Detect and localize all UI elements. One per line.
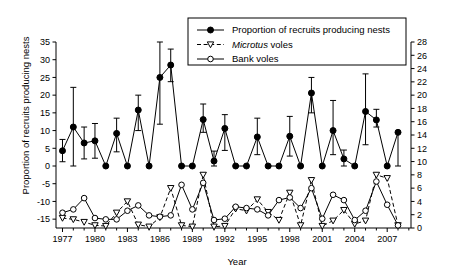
data-point-filled-circle — [70, 124, 76, 130]
data-point-filled-circle — [124, 163, 130, 169]
data-point-open-triangle-down — [362, 218, 368, 224]
data-point-open-circle — [200, 180, 206, 186]
data-point-open-circle — [233, 204, 239, 210]
data-point-filled-circle — [103, 163, 109, 169]
y-axis-right-tick-label: 24 — [417, 64, 427, 74]
data-point-filled-circle — [330, 128, 336, 134]
data-point-open-circle — [352, 217, 358, 223]
data-point-filled-circle — [222, 125, 228, 131]
x-axis-tick-label: 1989 — [182, 234, 202, 244]
x-axis-tick-label: 1983 — [117, 234, 137, 244]
y-axis-right-tick-label: 4 — [417, 197, 422, 207]
data-point-open-triangle-down — [113, 210, 119, 216]
data-point-open-triangle-down — [146, 224, 152, 230]
legend-label: Microtus voles — [232, 39, 293, 50]
legend-label-italic: Microtus — [232, 39, 268, 50]
data-point-filled-circle — [395, 129, 401, 135]
data-point-open-circle — [135, 203, 141, 209]
y-axis-left-tick-label: 20 — [40, 90, 50, 100]
data-point-filled-circle — [81, 140, 87, 146]
data-point-filled-circle — [200, 117, 206, 123]
series-2 — [60, 179, 401, 228]
data-point-open-circle — [341, 197, 347, 203]
series-line — [62, 65, 398, 166]
data-point-open-circle — [103, 217, 109, 223]
data-point-open-triangle-down — [276, 217, 282, 223]
y-axis-left-tick-label: -15 — [37, 214, 50, 224]
data-point-open-triangle-down — [384, 176, 390, 182]
data-point-open-circle — [395, 223, 401, 229]
data-point-open-triangle-down — [135, 222, 141, 228]
data-series-group — [59, 42, 401, 230]
data-point-open-triangle-down — [308, 178, 314, 184]
data-point-open-triangle-down — [330, 218, 336, 224]
data-point-filled-circle — [157, 74, 163, 80]
y-axis-right-tick-label: 26 — [417, 51, 427, 61]
x-axis-tick-label: 2004 — [345, 234, 365, 244]
data-point-open-triangle-down — [254, 197, 260, 203]
data-point-open-circle — [146, 213, 152, 219]
legend-label-rest: voles — [268, 39, 293, 50]
data-point-open-circle — [309, 185, 315, 191]
data-point-filled-circle — [59, 148, 65, 154]
data-point-open-circle — [168, 213, 174, 219]
data-point-filled-circle — [298, 163, 304, 169]
y-axis-right-tick-label: 6 — [417, 183, 422, 193]
data-point-filled-circle — [341, 156, 347, 162]
x-axis-tick-label: 1977 — [52, 234, 72, 244]
y-axis-left-tick-label: 10 — [40, 126, 50, 136]
data-point-open-circle — [244, 205, 250, 211]
data-point-open-circle — [211, 217, 217, 223]
data-point-filled-circle — [135, 107, 141, 113]
data-point-open-circle — [276, 197, 282, 203]
y-axis-left-tick-label: -10 — [37, 197, 50, 207]
data-point-open-triangle-down — [70, 217, 76, 223]
data-point-open-circle — [208, 56, 214, 62]
plot-area: -15-10-505101520253035024681012141618202… — [0, 0, 474, 275]
y-axis-left-tick-label: 5 — [45, 144, 50, 154]
data-point-filled-circle — [92, 138, 98, 144]
data-point-open-triangle-down — [189, 224, 195, 230]
data-point-filled-circle — [384, 163, 390, 169]
series-1 — [59, 172, 401, 230]
legend: Proportion of recruits producing nestsMi… — [188, 18, 406, 65]
data-point-open-circle — [363, 208, 369, 214]
x-axis-tick-label: 2007 — [377, 234, 397, 244]
y-axis-right-tick-label: 12 — [417, 144, 427, 154]
x-axis-tick-label: 1992 — [215, 234, 235, 244]
data-point-open-circle — [222, 216, 228, 222]
y-axis-right-tick-label: 16 — [417, 117, 427, 127]
data-point-open-circle — [125, 208, 131, 214]
error-bar — [157, 42, 163, 124]
x-axis-tick-label: 1998 — [280, 234, 300, 244]
x-axis-tick-label: 2001 — [312, 234, 332, 244]
data-point-filled-circle — [114, 130, 120, 136]
data-point-open-circle — [60, 210, 66, 216]
y-axis-right-tick-label: 22 — [417, 77, 427, 87]
x-axis-tick-label: 1980 — [85, 234, 105, 244]
data-point-filled-circle — [254, 134, 260, 140]
x-axis-tick-label: 1995 — [247, 234, 267, 244]
data-point-open-circle — [265, 213, 271, 219]
y-axis-left-tick-label: 25 — [40, 73, 50, 83]
data-point-open-circle — [179, 182, 185, 188]
data-point-open-circle — [374, 179, 380, 185]
y-axis-left-tick-label: -5 — [42, 179, 50, 189]
data-point-open-triangle-down — [168, 186, 174, 192]
data-point-filled-circle — [243, 163, 249, 169]
data-point-filled-circle — [287, 133, 293, 139]
data-point-filled-circle — [308, 90, 314, 96]
data-point-open-circle — [92, 215, 98, 221]
y-axis-left-tick-label: 0 — [45, 161, 50, 171]
data-point-filled-circle — [146, 163, 152, 169]
y-axis-right-tick-label: 8 — [417, 170, 422, 180]
y-axis-left-tick-label: 30 — [40, 55, 50, 65]
data-point-open-triangle-down — [200, 172, 206, 178]
data-point-filled-circle — [208, 27, 214, 33]
y-axis-right-tick-label: 18 — [417, 104, 427, 114]
data-point-filled-circle — [319, 163, 325, 169]
series-line — [62, 182, 398, 226]
x-axis-tick-label: 1986 — [150, 234, 170, 244]
y-axis-left-tick-label: 35 — [40, 37, 50, 47]
data-point-open-circle — [298, 205, 304, 211]
